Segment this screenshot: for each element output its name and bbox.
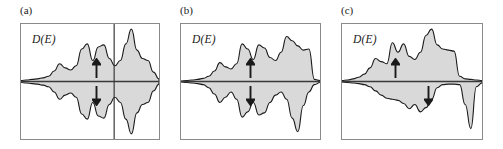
dos-area-a-spin-down: [21, 82, 159, 134]
panel-label-b: (b): [180, 4, 193, 16]
spin-up-arrow-b: [246, 58, 255, 78]
spin-up-arrow-c: [391, 58, 400, 78]
spin-down-arrow-c: [424, 86, 433, 106]
dos-area-c-spin-down: [342, 82, 482, 129]
spin-up-arrow-a: [92, 58, 101, 78]
spin-down-arrow-b: [246, 86, 255, 106]
axis-label-de-c: D(E): [353, 33, 377, 45]
spin-down-arrow-a: [92, 86, 101, 106]
plot-panel-c: D(E): [341, 23, 483, 140]
axis-label-de-b: D(E): [192, 33, 216, 45]
axis-label-de-a: D(E): [32, 33, 56, 45]
plot-panel-a: D(E): [20, 23, 160, 140]
panel-label-a: (a): [20, 4, 32, 16]
figure-density-of-states: (a)D(E)(b)D(E)(c)D(E): [0, 0, 503, 149]
panel-label-c: (c): [341, 4, 353, 16]
plot-panel-b: D(E): [180, 23, 321, 140]
